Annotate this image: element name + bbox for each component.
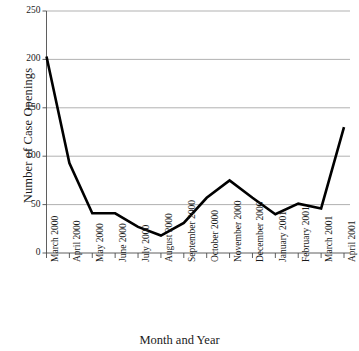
x-tick-label: April 2000 — [73, 221, 83, 262]
x-tick-label: May 2000 — [96, 223, 106, 262]
y-tick-label: 0 — [11, 248, 41, 258]
x-tick-label: December 2000 — [256, 202, 266, 262]
x-tick-label: July 2000 — [142, 225, 152, 262]
x-axis-title: Month and Year — [0, 333, 359, 348]
y-tick-label: 150 — [11, 103, 41, 113]
x-tick-label: April 2001 — [348, 221, 358, 262]
y-tick-label: 250 — [11, 6, 41, 16]
x-tick-label: March 2001 — [325, 216, 335, 262]
x-tick-label: January 2001 — [279, 211, 289, 262]
y-tick-label: 200 — [11, 54, 41, 64]
chart-svg — [0, 0, 359, 351]
x-tick-label: August 2000 — [165, 213, 175, 262]
x-tick-label: February 2001 — [302, 206, 312, 262]
x-tick-label: October 2000 — [211, 210, 221, 262]
y-tick-label: 100 — [11, 151, 41, 161]
gridlines — [47, 11, 351, 205]
y-tick-label: 50 — [11, 200, 41, 210]
x-tick-label: June 2000 — [119, 223, 129, 262]
chart-figure: Number of Case Openings 050100150200250 … — [0, 0, 359, 351]
x-tick-label: September 2000 — [188, 200, 198, 262]
plot-area: 050100150200250 March 2000April 2000May … — [0, 0, 359, 351]
x-tick-label: March 2000 — [51, 216, 61, 262]
x-tick-label: November 2000 — [234, 201, 244, 262]
y-tick-marks — [43, 11, 47, 253]
